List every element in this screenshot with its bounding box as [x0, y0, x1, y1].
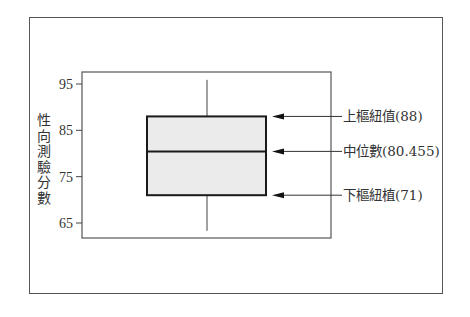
- y-axis-label-char: 向: [37, 128, 51, 144]
- y-tick-label: 75: [59, 170, 73, 185]
- arrowhead-icon: [272, 192, 284, 198]
- y-axis-label-char: 分: [37, 174, 51, 190]
- y-axis-label-char: 測: [37, 143, 51, 159]
- box-iqr: [147, 116, 266, 195]
- arrowhead-icon: [272, 148, 284, 154]
- y-axis-label-char: 數: [37, 190, 51, 206]
- box-plot-chart: 65758595性向測驗分數上樞紐值(88)中位數(80.455)下樞紐植(71…: [0, 0, 470, 317]
- y-tick-label: 95: [59, 77, 73, 92]
- y-tick-label: 85: [59, 123, 73, 138]
- arrowhead-icon: [272, 113, 284, 119]
- annotation-label: 下樞紐植(71): [343, 187, 423, 203]
- annotation-label: 中位數(80.455): [343, 143, 440, 159]
- y-axis-label-char: 性: [37, 112, 51, 128]
- y-tick-label: 65: [59, 216, 73, 231]
- y-axis-label-char: 驗: [37, 159, 51, 175]
- annotation-label: 上樞紐值(88): [343, 108, 423, 124]
